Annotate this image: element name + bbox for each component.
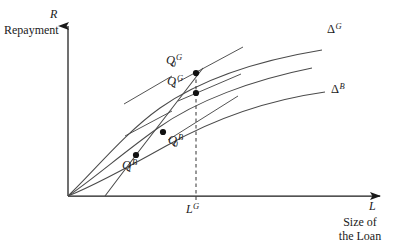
x-tick-base: L xyxy=(186,202,193,216)
economics-loan-repayment-diagram: R Repayment L Size of the Loan LG ΔG ΔB … xyxy=(0,0,396,244)
point-label-q0b-sup: B xyxy=(178,132,183,142)
point-label-q1b-sup: B xyxy=(132,157,137,167)
tangent-segment-delta-g-left xyxy=(124,76,172,104)
point-label-q1g: Q1G xyxy=(167,74,183,89)
curve-label-delta-g: ΔG xyxy=(327,22,342,36)
x-axis-symbol: L xyxy=(369,200,376,212)
y-axis-symbol: R xyxy=(50,8,57,20)
point-label-q1g-sup: G xyxy=(177,73,183,83)
x-axis-name-line1: Size of xyxy=(343,215,377,229)
x-axis-name: Size of the Loan xyxy=(326,216,394,244)
point-label-q0g: Q0G xyxy=(166,53,182,68)
x-axis-name-line2: the Loan xyxy=(339,229,381,243)
point-q0g xyxy=(193,70,199,76)
curve-label-delta-g-sup: G xyxy=(335,21,341,31)
curve-delta-middle xyxy=(68,68,312,196)
point-q0b xyxy=(160,129,166,135)
tangent-segment-q0g xyxy=(178,47,243,82)
curve-label-delta-g-base: Δ xyxy=(327,22,335,36)
steep-ray-through-q1b xyxy=(105,68,203,196)
curve-label-delta-b-base: Δ xyxy=(331,82,339,96)
point-q1g xyxy=(193,90,199,96)
y-axis-name: Repayment xyxy=(4,24,59,36)
point-label-q0b: Q0B xyxy=(168,133,183,148)
curve-label-delta-b: ΔB xyxy=(331,82,345,96)
point-label-q0g-sup: G xyxy=(176,52,182,62)
x-tick-sup: G xyxy=(193,201,199,211)
point-label-q1b: Q1B xyxy=(122,158,137,173)
x-tick-label-lg: LG xyxy=(186,202,199,215)
curve-label-delta-b-sup: B xyxy=(339,81,344,91)
